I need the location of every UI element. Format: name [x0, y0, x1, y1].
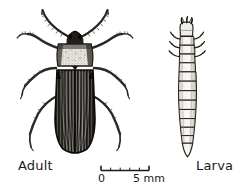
adult-beetle-illustration [17, 10, 133, 160]
scale-bar-max-label: 5 mm [133, 172, 165, 185]
scale-bar-min-label: 0 [98, 172, 105, 185]
adult-legs-right [92, 31, 133, 150]
illustration-figure: Adult Larva 0 5 mm [0, 0, 246, 191]
adult-head [67, 31, 83, 44]
larva-head [180, 17, 193, 36]
larva-illustration [169, 17, 205, 157]
adult-pronotum [55, 44, 95, 71]
adult-label: Adult [18, 158, 53, 173]
scale-bar [101, 166, 149, 171]
adult-legs-left [17, 31, 58, 150]
adult-elytra [54, 68, 96, 160]
larva-label: Larva [196, 158, 233, 173]
larva-thorax [169, 32, 205, 62]
